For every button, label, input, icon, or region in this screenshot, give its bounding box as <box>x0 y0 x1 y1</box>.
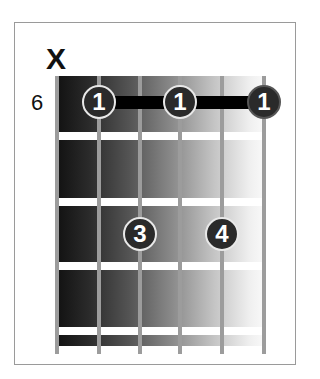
fret-line-3 <box>57 262 266 270</box>
finger-marker: 1 <box>82 85 116 119</box>
fret-line-1 <box>57 132 266 140</box>
mute-x-icon: X <box>46 44 66 74</box>
start-fret-label: 6 <box>31 92 43 114</box>
finger-marker: 4 <box>205 217 239 251</box>
string-1 <box>55 76 59 354</box>
finger-marker: 1 <box>163 85 197 119</box>
string-3 <box>138 76 142 354</box>
fret-line-4 <box>57 327 266 335</box>
string-5 <box>220 76 224 354</box>
finger-marker: 1 <box>247 85 281 119</box>
fretboard <box>57 76 266 346</box>
fret-line-2 <box>57 198 266 206</box>
finger-marker: 3 <box>123 217 157 251</box>
